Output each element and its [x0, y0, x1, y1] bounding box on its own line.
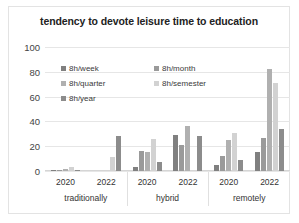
bar[interactable]	[261, 138, 266, 171]
legend-item[interactable]: 8h/year	[61, 91, 154, 106]
x-axis-year-label: 2022	[86, 177, 127, 187]
x-axis-category-label: hybrid	[127, 193, 209, 207]
axis-group-separator	[208, 172, 209, 206]
y-axis-tick-label: 20	[29, 141, 40, 152]
bar[interactable]	[157, 162, 162, 171]
bar[interactable]	[116, 136, 121, 171]
y-axis-tick-label: 40	[29, 116, 40, 127]
legend-swatch-icon	[61, 81, 66, 86]
legend-label: 8h/semester	[162, 79, 206, 88]
bar[interactable]	[279, 129, 284, 171]
bar[interactable]	[110, 157, 115, 171]
legend-item[interactable]: 8h/quarter	[61, 76, 154, 91]
x-axis-year-label: 2020	[45, 177, 86, 187]
bar[interactable]	[57, 170, 62, 171]
x-axis-category-labels: traditionallyhybridremotely	[45, 193, 290, 207]
bar[interactable]	[238, 160, 243, 171]
bar[interactable]	[226, 140, 231, 171]
y-axis-tick-label: 80	[29, 66, 40, 77]
bar[interactable]	[273, 83, 278, 171]
y-axis-tick-label: 60	[29, 91, 40, 102]
x-axis-year-label: 2020	[208, 177, 249, 187]
chart-container: tendency to devote leisure time to educa…	[8, 6, 290, 214]
gridline	[45, 171, 290, 172]
legend-swatch-icon	[154, 81, 159, 86]
legend-item[interactable]: 8h/week	[61, 61, 154, 76]
bar[interactable]	[145, 152, 150, 171]
bar[interactable]	[69, 167, 74, 171]
x-axis-category-label: traditionally	[45, 193, 127, 207]
y-axis-tick-label: 0	[35, 166, 40, 177]
x-axis-category-label: remotely	[208, 193, 290, 207]
bar[interactable]	[185, 126, 190, 171]
bar[interactable]	[255, 152, 260, 171]
bar[interactable]	[139, 151, 144, 171]
bar[interactable]	[63, 169, 68, 171]
legend-label: 8h/quarter	[69, 79, 105, 88]
legend-swatch-icon	[61, 66, 66, 71]
bar[interactable]	[197, 136, 202, 171]
bar[interactable]	[179, 145, 184, 171]
bar[interactable]	[214, 165, 219, 171]
bar[interactable]	[133, 167, 138, 171]
bar[interactable]	[267, 69, 272, 171]
legend-label: 8h/year	[69, 94, 96, 103]
legend-item[interactable]: 8h/month	[154, 61, 247, 76]
bar[interactable]	[173, 135, 178, 171]
x-axis-year-label: 2020	[127, 177, 168, 187]
legend-label: 8h/week	[69, 64, 99, 73]
year-label-group: 20202022	[127, 175, 209, 189]
x-axis-year-labels: 202020222020202220202022	[45, 175, 290, 189]
y-axis-tick-label: 100	[24, 42, 40, 53]
legend-label: 8h/month	[162, 64, 195, 73]
bar[interactable]	[51, 170, 56, 171]
bar[interactable]	[232, 133, 237, 171]
axis-group-separator	[127, 172, 128, 206]
chart-title: tendency to devote leisure time to educa…	[35, 15, 263, 28]
bar-subgroup	[249, 47, 290, 171]
bar[interactable]	[151, 139, 156, 171]
x-axis-year-label: 2022	[249, 177, 290, 187]
bar[interactable]	[220, 156, 225, 171]
legend-swatch-icon	[154, 66, 159, 71]
legend-swatch-icon	[61, 96, 66, 101]
bar[interactable]	[75, 170, 80, 171]
legend-item[interactable]: 8h/semester	[154, 76, 247, 91]
year-label-group: 20202022	[208, 175, 290, 189]
x-axis-year-label: 2022	[168, 177, 209, 187]
chart-legend: 8h/week8h/month8h/quarter8h/semester8h/y…	[61, 61, 247, 106]
year-label-group: 20202022	[45, 175, 127, 189]
